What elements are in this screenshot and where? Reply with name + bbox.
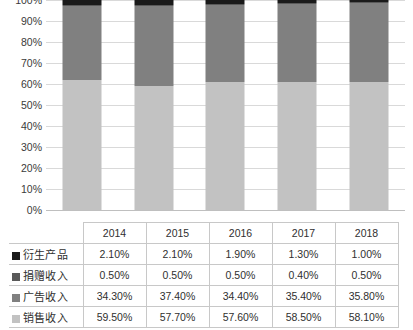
table-cell-value: 1.30% — [272, 244, 335, 265]
y-axis-tick-label: 80% — [21, 37, 42, 48]
y-axis: 100%90%80%70%60%50%40%30%20%10%0% — [0, 0, 44, 222]
table-cell-value: 0.50% — [335, 265, 398, 286]
table-cell-value: 2.10% — [83, 244, 146, 265]
plot-area: 100%90%80%70%60%50%40%30%20%10%0% — [0, 0, 413, 222]
legend-swatch-icon — [12, 315, 20, 323]
legend-label-text: 捐赠收入 — [23, 270, 68, 282]
y-axis-tick-label: 90% — [21, 16, 42, 27]
table-cell-value: 0.50% — [83, 265, 146, 286]
table-cell-value: 0.50% — [209, 265, 272, 286]
table-cell-value: 35.80% — [335, 286, 398, 307]
stacked-column-chart: 100%90%80%70%60%50%40%30%20%10%0% 201420… — [0, 0, 413, 330]
legend-swatch-icon — [12, 252, 20, 260]
legend-swatch-icon — [12, 294, 20, 302]
bar-segment — [62, 6, 101, 81]
table-row: 广告收入34.30%37.40%34.40%35.40%35.80% — [9, 286, 398, 307]
bar-segment — [206, 5, 245, 82]
table-row: 衍生产品2.10%2.10%1.90%1.30%1.00% — [9, 244, 398, 265]
legend-row-label: 衍生产品 — [9, 244, 83, 265]
bar-slot — [118, 0, 190, 210]
table-header-row: 20142015201620172018 — [9, 223, 398, 244]
legend-row-label: 捐赠收入 — [9, 265, 83, 286]
table-header-year: 2016 — [209, 223, 272, 244]
data-table: 20142015201620172018衍生产品2.10%2.10%1.90%1… — [9, 222, 399, 328]
table-header-year: 2014 — [83, 223, 146, 244]
bar-slot — [46, 0, 118, 210]
bar-slot — [190, 0, 262, 210]
table-cell-value: 1.00% — [335, 244, 398, 265]
table-header-year: 2018 — [335, 223, 398, 244]
stacked-bar[interactable] — [62, 0, 101, 210]
table-cell-value: 1.90% — [209, 244, 272, 265]
legend-label-text: 广告收入 — [23, 291, 68, 303]
table-header-year: 2015 — [146, 223, 209, 244]
legend-label-text: 销售收入 — [23, 312, 68, 324]
table-corner-cell — [9, 223, 83, 244]
table-cell-value: 58.50% — [272, 307, 335, 328]
y-axis-tick-label: 70% — [21, 58, 42, 69]
table-cell-value: 37.40% — [146, 286, 209, 307]
bars-layer — [46, 0, 405, 210]
stacked-bar[interactable] — [350, 0, 389, 210]
bar-slot — [333, 0, 405, 210]
table-row: 捐赠收入0.50%0.50%0.50%0.40%0.50% — [9, 265, 398, 286]
stacked-bar[interactable] — [134, 0, 173, 210]
stacked-bar[interactable] — [206, 0, 245, 210]
axis-baseline — [46, 210, 405, 211]
table-header-year: 2017 — [272, 223, 335, 244]
table-cell-value: 0.50% — [146, 265, 209, 286]
legend-swatch-icon — [12, 273, 20, 281]
y-axis-tick-label: 50% — [21, 100, 42, 111]
table-cell-value: 2.10% — [146, 244, 209, 265]
y-axis-tick-label: 100% — [15, 0, 42, 5]
y-axis-tick-label: 20% — [21, 163, 42, 174]
bar-segment — [278, 4, 317, 82]
y-axis-tick-label: 10% — [21, 184, 42, 195]
table-cell-value: 57.60% — [209, 307, 272, 328]
table-cell-value: 0.40% — [272, 265, 335, 286]
bar-segment — [206, 82, 245, 210]
bar-segment — [134, 6, 173, 86]
table-row: 销售收入59.50%57.70%57.60%58.50%58.10% — [9, 307, 398, 328]
table-cell-value: 34.40% — [209, 286, 272, 307]
y-axis-tick-label: 30% — [21, 142, 42, 153]
table-cell-value: 58.10% — [335, 307, 398, 328]
stacked-bar[interactable] — [278, 0, 317, 210]
bar-segment — [278, 82, 317, 211]
y-axis-tick-label: 0% — [27, 205, 42, 216]
bar-segment — [134, 86, 173, 210]
table-cell-value: 35.40% — [272, 286, 335, 307]
table-cell-value: 59.50% — [83, 307, 146, 328]
legend-row-label: 广告收入 — [9, 286, 83, 307]
y-axis-tick-label: 40% — [21, 121, 42, 132]
legend-label-text: 衍生产品 — [23, 249, 68, 261]
bar-segment — [350, 82, 389, 210]
y-axis-tick-label: 60% — [21, 79, 42, 90]
table-cell-value: 57.70% — [146, 307, 209, 328]
data-table-body: 20142015201620172018衍生产品2.10%2.10%1.90%1… — [9, 223, 398, 328]
bar-segment — [62, 80, 101, 210]
table-cell-value: 34.30% — [83, 286, 146, 307]
bar-segment — [350, 3, 389, 82]
legend-row-label: 销售收入 — [9, 307, 83, 328]
bar-slot — [261, 0, 333, 210]
